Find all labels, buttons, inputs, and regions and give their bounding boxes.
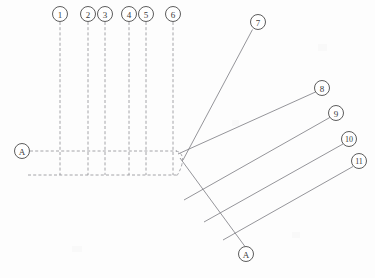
balloon-11[interactable]: 11 [352, 154, 367, 169]
balloon-label-10: 10 [345, 135, 353, 144]
balloon-10[interactable]: 10 [342, 132, 357, 147]
leader-line-11 [223, 167, 353, 241]
vertical-leader-lines [60, 22, 173, 175]
balloon-label-3: 3 [103, 10, 108, 20]
balloon-1[interactable]: 1 [53, 7, 68, 22]
balloon-label-2: 2 [86, 10, 91, 20]
balloon-8[interactable]: 8 [315, 81, 330, 96]
section-marker-label-left: A [19, 147, 26, 157]
balloon-7[interactable]: 7 [251, 15, 266, 30]
balloon-label-6: 6 [171, 10, 176, 20]
balloon-label-7: 7 [256, 18, 261, 28]
balloon-6[interactable]: 6 [166, 7, 181, 22]
balloon-label-5: 5 [144, 10, 149, 20]
balloon-label-11: 11 [355, 157, 363, 166]
leader-line-8 [178, 92, 316, 154]
balloon-4[interactable]: 4 [122, 7, 137, 22]
balloon-label-4: 4 [127, 10, 132, 20]
diagram-canvas: 1 2 3 4 5 6 7 8 [0, 0, 375, 278]
balloon-label-9: 9 [334, 109, 339, 119]
harness-corner-curve [176, 151, 182, 176]
balloon-label-1: 1 [58, 10, 63, 20]
balloon-label-8: 8 [320, 84, 325, 94]
section-marker-label-bottom: A [243, 250, 250, 260]
harness-horizontal-runs [28, 151, 177, 175]
balloon-9[interactable]: 9 [329, 106, 344, 121]
leader-line-7 [183, 30, 253, 161]
leader-line-10 [204, 144, 343, 222]
section-marker-a-left[interactable]: A [15, 144, 30, 159]
balloon-2[interactable]: 2 [81, 7, 96, 22]
balloon-3[interactable]: 3 [98, 7, 113, 22]
leader-line-9 [184, 118, 330, 201]
balloon-5[interactable]: 5 [139, 7, 154, 22]
section-marker-a-bottom[interactable]: A [239, 247, 254, 262]
diagonal-leader-lines [178, 30, 353, 241]
diagram-svg: 1 2 3 4 5 6 7 8 [0, 0, 375, 278]
